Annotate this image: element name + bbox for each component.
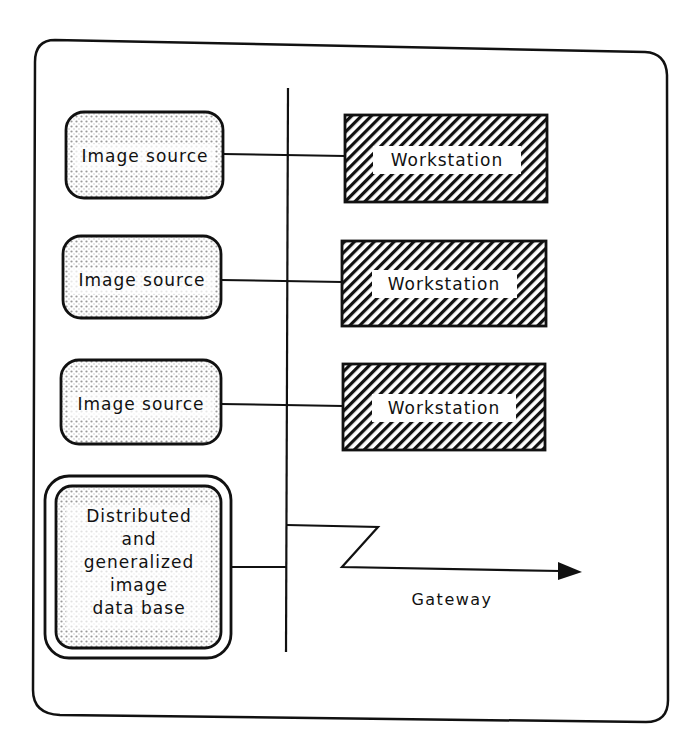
diagram-canvas: Image source Workstation Image source Wo… — [0, 0, 687, 744]
image-source-label: Image source — [78, 270, 205, 290]
arrowhead-icon — [558, 562, 582, 580]
image-source-1[interactable]: Image source — [66, 112, 223, 198]
gateway-link — [287, 525, 560, 571]
workstation-1[interactable]: Workstation — [345, 115, 547, 202]
image-source-2[interactable]: Image source — [63, 236, 221, 318]
database-label-line: image — [110, 575, 168, 595]
workstation-label: Workstation — [391, 150, 504, 170]
image-source-label: Image source — [81, 146, 208, 166]
database-label-line: data base — [92, 598, 185, 618]
link-source-2 — [221, 280, 342, 282]
workstation-2[interactable]: Workstation — [342, 241, 546, 326]
database-label-line: and — [122, 529, 157, 549]
gateway-label: Gateway — [411, 590, 492, 609]
link-source-1 — [223, 154, 345, 156]
image-source-3[interactable]: Image source — [61, 360, 221, 444]
database-label-line: generalized — [84, 552, 195, 572]
workstation-label: Workstation — [388, 398, 501, 418]
workstation-label: Workstation — [388, 274, 501, 294]
link-source-3 — [221, 404, 343, 406]
workstation-3[interactable]: Workstation — [343, 364, 545, 450]
image-source-label: Image source — [77, 394, 204, 414]
database-label-line: Distributed — [86, 506, 192, 526]
image-database[interactable]: Distributed and generalized image data b… — [45, 476, 231, 658]
